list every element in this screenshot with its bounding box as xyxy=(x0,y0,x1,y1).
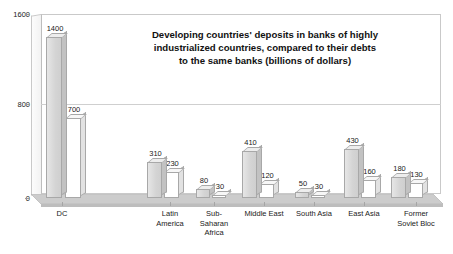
x-tick-mark xyxy=(264,202,265,206)
bar-front-face xyxy=(46,37,62,198)
bar-front-face xyxy=(65,118,81,199)
chart-title-line-1: Developing countries' deposits in banks … xyxy=(105,28,425,41)
bar-front-face xyxy=(295,192,309,198)
x-tick-mark xyxy=(214,202,215,206)
bar-front-face xyxy=(391,177,406,198)
x-tick-mark xyxy=(170,202,171,206)
x-axis-label-east-asia: East Asia xyxy=(334,209,394,219)
x-tick-mark xyxy=(314,202,315,206)
bar-south-asia-debts xyxy=(311,195,325,198)
bar-side-face xyxy=(81,111,86,195)
bar-middle-east-deposits xyxy=(242,151,257,198)
bar-front-face xyxy=(196,189,210,198)
bar-front-face xyxy=(242,151,257,198)
bar-south-asia-deposits xyxy=(295,192,309,198)
bar-side-face xyxy=(359,142,364,195)
bar-front-face xyxy=(344,149,359,198)
bar-side-face xyxy=(257,145,262,195)
bar-chart: 1600 800 0 1400700DC310230Latin America8… xyxy=(0,0,453,254)
bar-dc-debts xyxy=(65,118,81,199)
x-tick-mark xyxy=(62,202,63,206)
bar-east-asia-deposits xyxy=(344,149,359,198)
bar-latin-america-deposits xyxy=(147,162,162,198)
bar-front-face xyxy=(311,195,325,198)
bar-dc-deposits xyxy=(46,37,62,198)
chart-title-line-2: industrialized countries, compared to th… xyxy=(105,41,425,54)
bar-sub-saharan-africa-deposits xyxy=(196,189,210,198)
bar-value-label: 430 xyxy=(341,136,364,145)
bar-side-face xyxy=(62,31,67,195)
x-axis-label-dc: DC xyxy=(32,209,92,219)
bar-front-face xyxy=(147,162,162,198)
x-tick-mark xyxy=(364,202,365,206)
bar-front-face xyxy=(212,195,226,198)
chart-title-line-3: to the same banks (billions of dollars) xyxy=(105,54,425,67)
chart-title: Developing countries' deposits in banks … xyxy=(105,28,425,67)
x-tick-mark xyxy=(416,202,417,206)
bar-sub-saharan-africa-debts xyxy=(212,195,226,198)
x-axis-label-former-soviet-bloc: Former Soviet Bloc xyxy=(386,209,446,228)
bar-former-soviet-bloc-deposits xyxy=(391,177,406,198)
